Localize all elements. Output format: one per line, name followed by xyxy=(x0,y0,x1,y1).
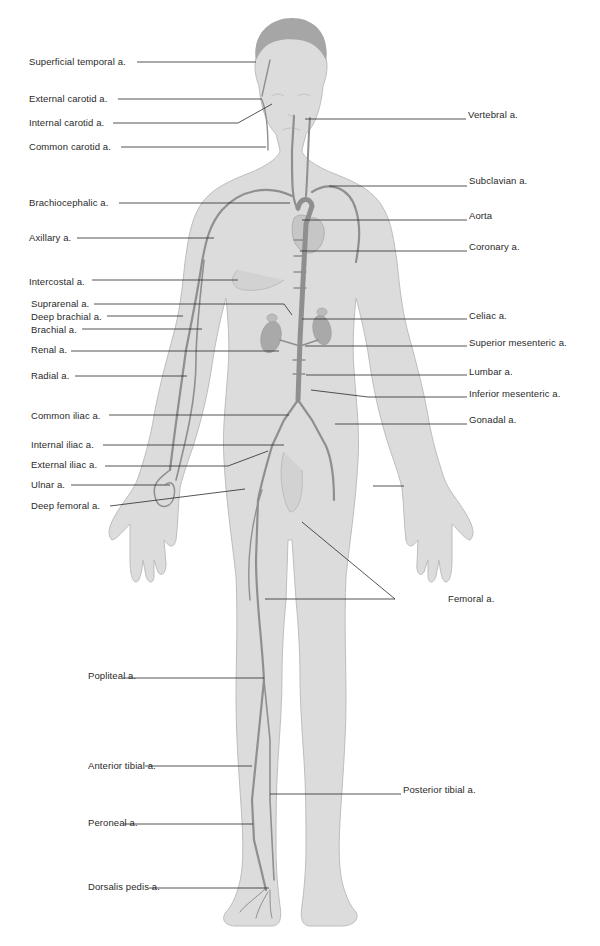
label-subclavian-artery: Subclavian a. xyxy=(469,175,527,187)
label-external-iliac-artery: External iliac a. xyxy=(31,459,97,471)
label-aorta: Aorta xyxy=(469,210,492,222)
label-renal-artery: Renal a. xyxy=(31,344,67,356)
label-brachiocephalic-artery: Brachiocephalic a. xyxy=(29,197,108,209)
label-coronary-artery: Coronary a. xyxy=(469,241,520,253)
label-vertebral-artery: Vertebral a. xyxy=(468,109,518,121)
label-superficial-temporal-artery: Superficial temporal a. xyxy=(29,56,126,68)
label-deep-femoral-artery: Deep femoral a. xyxy=(31,500,100,512)
label-celiac-artery: Celiac a. xyxy=(469,310,507,322)
label-internal-iliac-artery: Internal iliac a. xyxy=(31,439,94,451)
label-femoral-artery: Femoral a. xyxy=(448,593,494,605)
leader-line xyxy=(113,104,272,123)
left-adrenal xyxy=(267,314,277,322)
label-popliteal-artery: Popliteal a. xyxy=(88,670,136,682)
label-intercostal-artery: Intercostal a. xyxy=(29,276,85,288)
label-dorsalis-pedis-artery: Dorsalis pedis a. xyxy=(88,881,160,893)
label-anterior-tibial-artery: Anterior tibial a. xyxy=(88,760,156,772)
label-axillary-artery: Axillary a. xyxy=(29,232,71,244)
label-peroneal-artery: Peroneal a. xyxy=(88,817,138,829)
right-adrenal xyxy=(317,308,327,316)
label-lumbar-artery: Lumbar a. xyxy=(469,366,513,378)
label-deep-brachial-artery: Deep brachial a. xyxy=(31,311,102,323)
label-radial-artery: Radial a. xyxy=(31,370,69,382)
label-internal-carotid-artery: Internal carotid a. xyxy=(29,117,104,129)
label-superior-mesenteric-artery: Superior mesenteric a. xyxy=(469,337,567,349)
label-inferior-mesenteric-artery: Inferior mesenteric a. xyxy=(469,388,560,400)
label-posterior-tibial-artery: Posterior tibial a. xyxy=(403,784,476,796)
label-external-carotid-artery: External carotid a. xyxy=(29,93,107,105)
label-common-carotid-artery: Common carotid a. xyxy=(29,141,111,153)
label-gonadal-artery: Gonadal a. xyxy=(469,414,516,426)
label-brachial-artery: Brachial a. xyxy=(31,324,77,336)
label-ulnar-artery: Ulnar a. xyxy=(31,479,65,491)
label-common-iliac-artery: Common iliac a. xyxy=(31,410,101,422)
label-suprarenal-artery: Suprarenal a. xyxy=(31,298,89,310)
